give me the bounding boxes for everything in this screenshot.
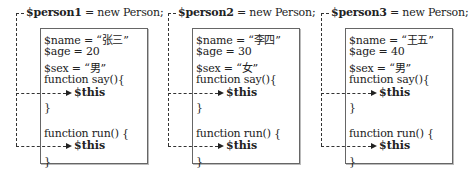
arrow-icon xyxy=(66,143,72,149)
arrow-icon xyxy=(371,143,377,149)
declaration: $person3 = new Person; xyxy=(331,6,468,19)
say-this-line xyxy=(168,93,218,94)
say-this-line xyxy=(16,93,66,94)
say-close: } xyxy=(44,101,51,114)
run-this-line xyxy=(168,146,218,147)
person3-object-diagram: $person3 = new Person; $name = “王五” $age… xyxy=(321,0,473,180)
arrow-icon xyxy=(218,143,224,149)
run-this-label: $this xyxy=(379,139,410,152)
run-this-line xyxy=(16,146,66,147)
run-close: } xyxy=(349,155,356,168)
run-this-line xyxy=(321,146,371,147)
run-this-label: $this xyxy=(226,139,257,152)
arrow-icon xyxy=(66,90,72,96)
say-this-label: $this xyxy=(379,86,410,99)
say-this-line xyxy=(321,93,371,94)
arrow-icon xyxy=(218,90,224,96)
reference-line xyxy=(16,13,17,146)
say-this-label: $this xyxy=(74,86,105,99)
age-property: $age = 30 xyxy=(196,45,252,58)
declaration: $person2 = new Person; xyxy=(178,6,315,19)
run-this-label: $this xyxy=(74,139,105,152)
declaration: $person1 = new Person; xyxy=(26,6,163,19)
say-close: } xyxy=(196,101,203,114)
say-method: function say(){ xyxy=(196,73,277,86)
age-property: $age = 20 xyxy=(44,45,100,58)
age-property: $age = 40 xyxy=(349,45,405,58)
person1-object-diagram: $person1 = new Person; $name = “张三” $age… xyxy=(16,0,168,180)
reference-line xyxy=(321,13,322,146)
reference-line-top xyxy=(321,13,329,14)
reference-line-top xyxy=(16,13,24,14)
arrow-icon xyxy=(371,90,377,96)
say-close: } xyxy=(349,101,356,114)
person2-object-diagram: $person2 = new Person; $name = “李四” $age… xyxy=(168,0,320,180)
say-method: function say(){ xyxy=(44,73,125,86)
reference-line-top xyxy=(168,13,176,14)
run-close: } xyxy=(44,155,51,168)
run-close: } xyxy=(196,155,203,168)
say-method: function say(){ xyxy=(349,73,430,86)
reference-line xyxy=(168,13,169,146)
say-this-label: $this xyxy=(226,86,257,99)
